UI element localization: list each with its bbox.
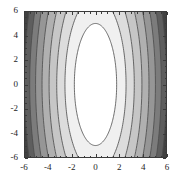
- x-tick-mark-top: [66, 12, 67, 14]
- y-tick-label: 4: [0, 31, 18, 40]
- x-tick-mark-top: [101, 12, 102, 14]
- x-tick-mark-bottom: [24, 154, 25, 157]
- y-tick-mark-left: [25, 60, 28, 61]
- y-tick-mark-left: [25, 103, 27, 104]
- y-tick-mark-right: [163, 36, 166, 37]
- x-tick-mark-top: [30, 12, 31, 14]
- x-tick-label: 6: [158, 163, 174, 172]
- x-tick-mark-top: [161, 12, 162, 14]
- x-tick-label: -2: [63, 163, 81, 172]
- y-tick-mark-right: [165, 17, 167, 18]
- y-tick-mark-right: [165, 23, 167, 24]
- x-tick-mark-top: [167, 12, 168, 15]
- y-tick-mark-left: [25, 72, 27, 73]
- x-tick-mark-bottom: [96, 154, 97, 157]
- y-tick-mark-left: [25, 127, 27, 128]
- x-tick-mark-top: [96, 12, 97, 15]
- y-tick-mark-left: [25, 42, 27, 43]
- y-tick-mark-left: [25, 146, 27, 147]
- y-tick-mark-right: [165, 91, 167, 92]
- y-tick-mark-right: [163, 11, 166, 12]
- y-tick-mark-left: [25, 158, 28, 159]
- x-tick-mark-top: [48, 12, 49, 15]
- y-tick-label: 0: [0, 80, 18, 89]
- y-tick-mark-right: [163, 85, 166, 86]
- x-tick-mark-top: [60, 12, 61, 14]
- x-tick-mark-top: [24, 12, 25, 15]
- y-tick-mark-left: [25, 54, 27, 55]
- x-tick-mark-top: [84, 12, 85, 14]
- y-tick-mark-left: [25, 115, 27, 116]
- y-tick-mark-left: [25, 85, 28, 86]
- y-tick-mark-left: [25, 36, 28, 37]
- y-tick-mark-right: [165, 66, 167, 67]
- x-tick-mark-bottom: [48, 154, 49, 157]
- y-tick-mark-right: [165, 140, 167, 141]
- x-tick-label: -6: [15, 163, 33, 172]
- y-tick-mark-right: [165, 97, 167, 98]
- x-tick-mark-bottom: [167, 154, 168, 157]
- x-tick-mark-bottom: [113, 156, 114, 158]
- y-tick-mark-right: [165, 115, 167, 116]
- x-tick-mark-bottom: [125, 156, 126, 158]
- x-tick-mark-bottom: [107, 156, 108, 158]
- y-tick-mark-right: [165, 72, 167, 73]
- x-tick-mark-top: [131, 12, 132, 14]
- x-tick-mark-bottom: [137, 156, 138, 158]
- x-tick-label: 4: [134, 163, 152, 172]
- x-tick-mark-bottom: [30, 156, 31, 158]
- x-tick-mark-top: [54, 12, 55, 14]
- y-tick-mark-left: [25, 121, 27, 122]
- x-tick-mark-bottom: [78, 156, 79, 158]
- y-tick-mark-left: [25, 17, 27, 18]
- y-tick-mark-right: [163, 60, 166, 61]
- y-tick-mark-left: [25, 66, 27, 67]
- contour-plot-figure: 6420-2-4-6 -6-4-20246: [0, 0, 174, 181]
- x-tick-mark-bottom: [90, 156, 91, 158]
- y-tick-mark-left: [25, 140, 27, 141]
- x-tick-mark-bottom: [161, 156, 162, 158]
- x-tick-mark-top: [125, 12, 126, 14]
- x-tick-mark-top: [78, 12, 79, 14]
- y-tick-label: -4: [0, 129, 18, 138]
- x-tick-mark-bottom: [66, 156, 67, 158]
- y-tick-mark-right: [165, 29, 167, 30]
- x-tick-mark-bottom: [149, 156, 150, 158]
- y-tick-label: -2: [0, 104, 18, 113]
- y-tick-mark-left: [25, 48, 27, 49]
- x-tick-mark-bottom: [36, 156, 37, 158]
- x-tick-mark-top: [119, 12, 120, 15]
- y-tick-mark-right: [163, 158, 166, 159]
- x-tick-mark-bottom: [131, 156, 132, 158]
- x-tick-mark-top: [42, 12, 43, 14]
- plot-frame: [24, 11, 167, 158]
- x-tick-mark-top: [155, 12, 156, 14]
- x-tick-mark-top: [143, 12, 144, 15]
- y-tick-mark-right: [165, 42, 167, 43]
- y-tick-label: 2: [0, 55, 18, 64]
- x-tick-label: -4: [39, 163, 57, 172]
- y-tick-mark-right: [165, 54, 167, 55]
- y-tick-mark-right: [165, 146, 167, 147]
- x-tick-mark-bottom: [143, 154, 144, 157]
- x-tick-mark-bottom: [42, 156, 43, 158]
- y-tick-label: 6: [0, 6, 18, 15]
- x-tick-mark-bottom: [119, 154, 120, 157]
- y-tick-mark-left: [25, 134, 28, 135]
- x-tick-mark-top: [113, 12, 114, 14]
- x-tick-mark-bottom: [84, 156, 85, 158]
- y-tick-mark-right: [165, 103, 167, 104]
- y-tick-mark-right: [165, 127, 167, 128]
- y-tick-mark-left: [25, 152, 27, 153]
- y-tick-mark-left: [25, 11, 28, 12]
- y-tick-mark-left: [25, 97, 27, 98]
- y-tick-mark-left: [25, 91, 27, 92]
- x-tick-mark-top: [107, 12, 108, 14]
- x-tick-label: 2: [110, 163, 128, 172]
- x-tick-mark-top: [149, 12, 150, 14]
- x-tick-mark-top: [137, 12, 138, 14]
- y-tick-mark-left: [25, 78, 27, 79]
- x-tick-mark-bottom: [72, 154, 73, 157]
- y-tick-mark-right: [165, 48, 167, 49]
- x-tick-mark-bottom: [101, 156, 102, 158]
